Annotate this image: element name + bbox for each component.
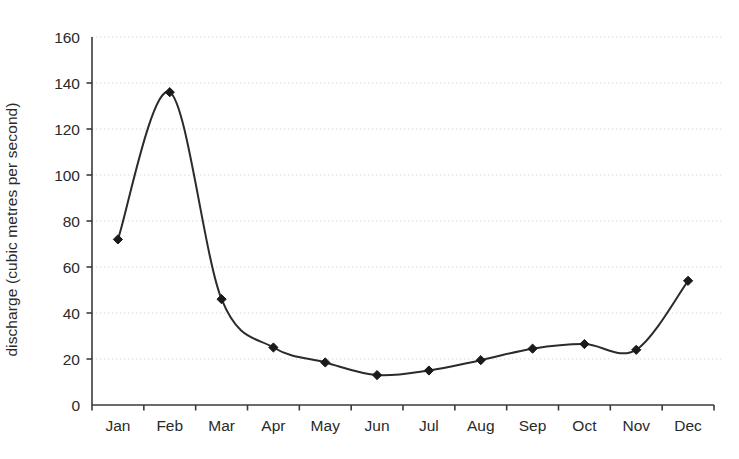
x-axis-tick-label: Apr xyxy=(261,417,285,434)
y-axis-tick-label: 0 xyxy=(71,397,80,414)
chart-container: discharge (cubic metres per second) 1601… xyxy=(0,0,739,459)
data-point-marker xyxy=(113,235,122,244)
x-axis-tick-label: Aug xyxy=(467,417,495,434)
data-point-marker xyxy=(424,366,433,375)
x-axis-tick-label: Dec xyxy=(674,417,702,434)
x-axis-tick-label: Feb xyxy=(156,417,183,434)
x-axis-tick-label: Jun xyxy=(365,417,390,434)
x-axis-tick-label: Nov xyxy=(622,417,650,434)
data-point-marker xyxy=(269,343,278,352)
y-axis-tick-label: 140 xyxy=(54,75,80,92)
y-axis-tick-label: 100 xyxy=(54,167,80,184)
x-axis-tick-label: Mar xyxy=(208,417,235,434)
x-axis: JanFebMarAprMayJunJulAugSepOctNovDec xyxy=(92,405,714,434)
gridlines-group xyxy=(92,37,724,359)
x-axis-tick-label: Sep xyxy=(519,417,547,434)
data-markers-group xyxy=(113,88,692,380)
y-axis-tick-label: 80 xyxy=(63,213,81,230)
data-point-marker xyxy=(372,371,381,380)
y-axis-tick-label: 160 xyxy=(54,29,80,46)
y-axis-tick-label: 120 xyxy=(54,121,80,138)
y-axis-tick-label: 20 xyxy=(63,351,81,368)
y-axis-tick-label: 60 xyxy=(63,259,81,276)
data-series-discharge xyxy=(118,92,688,376)
series-line xyxy=(118,92,688,376)
data-point-marker xyxy=(217,295,226,304)
x-axis-tick-label: Jul xyxy=(419,417,439,434)
y-axis: 160140120100806040200 xyxy=(54,29,92,414)
x-axis-tick-label: Oct xyxy=(572,417,597,434)
y-axis-tick-label: 40 xyxy=(63,305,81,322)
x-axis-tick-label: May xyxy=(311,417,341,434)
data-point-marker xyxy=(580,339,589,348)
data-point-marker xyxy=(528,344,537,353)
data-point-marker xyxy=(476,356,485,365)
line-chart-plot: 160140120100806040200 JanFebMarAprMayJun… xyxy=(0,0,739,459)
x-axis-tick-label: Jan xyxy=(105,417,130,434)
